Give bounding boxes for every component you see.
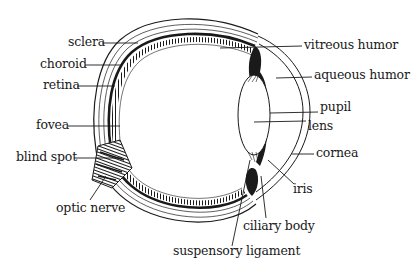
label-ciliary-body: ciliary body (243, 220, 315, 233)
sclera-layer (94, 19, 258, 222)
eye-anatomy-diagram: sclera choroid retina fovea blind spot o… (0, 0, 413, 268)
lens-shape (238, 75, 270, 155)
label-lens: lens (308, 120, 333, 133)
label-optic-nerve: optic nerve (56, 202, 125, 215)
retina-layer (114, 40, 253, 203)
label-pupil: pupil (320, 101, 351, 114)
label-blind-spot: blind spot (16, 151, 77, 164)
label-cornea: cornea (316, 147, 358, 160)
label-aqueous-humor: aqueous humor (314, 69, 410, 82)
label-vitreous-humor: vitreous humor (304, 39, 398, 52)
label-suspensory-ligament: suspensory ligament (173, 245, 300, 258)
label-fovea: fovea (36, 119, 69, 132)
label-iris: iris (293, 183, 313, 196)
label-choroid: choroid (40, 58, 87, 71)
label-sclera: sclera (68, 36, 105, 49)
label-retina: retina (43, 79, 80, 92)
